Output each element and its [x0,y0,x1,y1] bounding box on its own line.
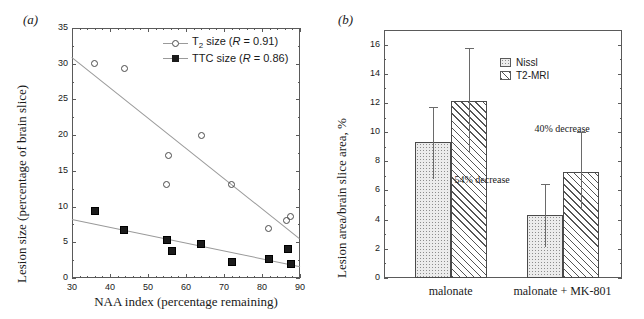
x-tick-label: 60 [174,282,198,292]
y-tick-mark-right [296,99,300,100]
figure-container: (a) Lesion size (percentage of brain sli… [0,0,644,319]
t2-mid-text: size ( [203,35,232,47]
y-tick-label: 8 [358,155,380,165]
y-minor-tick [620,263,622,264]
y-tick-mark [72,242,76,243]
x-minor-tick [239,28,240,30]
x-minor-tick [80,276,81,278]
data-point-open-circle [265,225,272,232]
x-minor-tick [277,276,278,278]
y-minor-tick [620,176,622,177]
y-minor-tick [72,189,74,190]
y-tick-label: 5 [46,236,68,246]
x-minor-tick [232,28,233,30]
y-tick-label: 12 [358,97,380,107]
x-minor-tick [140,276,141,278]
x-minor-tick [125,276,126,278]
error-bar [469,48,470,153]
x-tick-mark-top [186,28,187,32]
y-minor-tick [298,189,300,190]
y-minor-tick [384,263,386,264]
y-tick-mark-right [296,135,300,136]
y-tick-mark [72,135,76,136]
y-minor-tick [72,46,74,47]
x-tick-mark-top [300,28,301,32]
legend-label-ttc: TTC size (R = 0.86) [192,51,288,66]
y-tick-label: 14 [358,68,380,78]
legend-line-icon [179,43,188,44]
y-tick-mark [384,103,388,104]
y-minor-tick [384,30,386,31]
group-label-2: malonate + MK-801 [483,284,643,299]
x-minor-tick [87,28,88,30]
x-minor-tick [247,28,248,30]
x-minor-tick [125,28,126,30]
x-tick-mark [300,274,301,278]
x-minor-tick [277,28,278,30]
x-minor-tick [178,28,179,30]
y-tick-mark [384,249,388,250]
data-point-filled-square [168,247,176,255]
open-circle-icon [172,40,179,47]
x-tick-mark [224,274,225,278]
y-minor-tick [298,260,300,261]
t2mri-swatch-icon [500,71,511,80]
y-tick-label: 16 [358,39,380,49]
x-minor-tick [232,276,233,278]
data-point-filled-square [228,258,236,266]
y-tick-mark-right [618,249,622,250]
y-tick-label: 0 [358,272,380,282]
y-tick-mark [384,190,388,191]
error-bar-cap-top [429,107,438,108]
y-tick-label: 6 [358,184,380,194]
legend-item-t2mri: T2-MRI [500,69,549,82]
x-tick-mark-top [110,28,111,32]
y-minor-tick [72,117,74,118]
x-minor-tick [247,276,248,278]
y-minor-tick [620,30,622,31]
y-tick-label: 2 [358,243,380,253]
x-minor-tick [194,276,195,278]
data-point-filled-square [265,255,273,263]
error-bar-cap-top [465,48,474,49]
y-tick-label: 4 [358,214,380,224]
data-point-filled-square [91,207,99,215]
legend-line-icon [179,58,188,59]
y-tick-mark-right [618,103,622,104]
x-minor-tick [133,28,134,30]
error-bar [545,184,546,247]
y-minor-tick [298,153,300,154]
y-tick-mark-right [618,45,622,46]
t2-r-value: = 0.91) [240,35,278,47]
x-minor-tick [171,28,172,30]
y-minor-tick [298,224,300,225]
legend-label-t2mri: T2-MRI [516,69,549,82]
legend-item-nissl: Nissl [500,56,549,69]
y-tick-mark-right [296,278,300,279]
y-tick-mark [384,161,388,162]
y-tick-mark-right [296,171,300,172]
y-tick-mark-right [618,278,622,279]
y-tick-mark [384,45,388,46]
x-tick-mark [148,274,149,278]
x-minor-tick [95,28,96,30]
y-tick-label: 15 [46,165,68,175]
error-bar-cap-top [541,184,550,185]
y-tick-label: 10 [46,201,68,211]
y-minor-tick [384,176,386,177]
y-tick-mark [72,171,76,172]
y-tick-mark-right [618,190,622,191]
y-minor-tick [620,59,622,60]
data-point-open-circle [198,132,205,139]
y-minor-tick [298,82,300,83]
x-minor-tick [102,28,103,30]
x-tick-label: 80 [250,282,274,292]
t2-symbol: T [192,35,199,47]
y-minor-tick [384,147,386,148]
x-tick-label: 90 [288,282,312,292]
x-minor-tick [292,28,293,30]
y-minor-tick [72,224,74,225]
y-minor-tick [384,205,386,206]
x-minor-tick [118,276,119,278]
data-point-open-circle [163,181,170,188]
